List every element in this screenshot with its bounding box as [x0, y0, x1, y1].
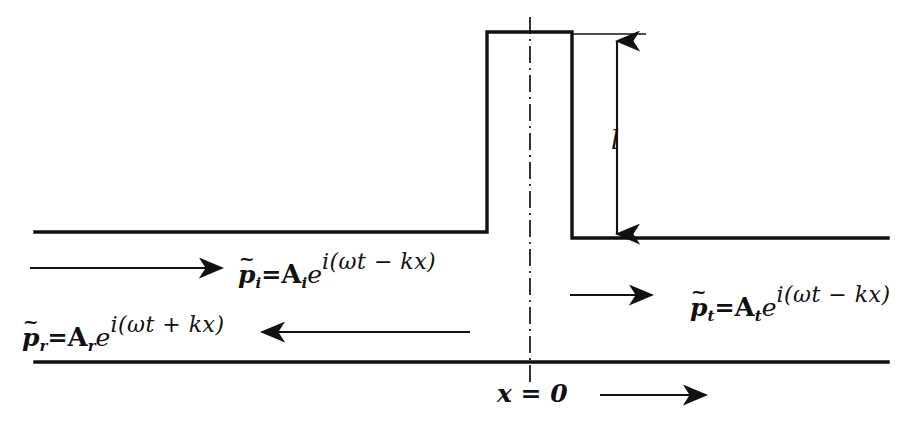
- transmitted-p-symbol: ~p: [690, 295, 707, 320]
- incident-exponent: i(ωt − kx): [322, 249, 436, 274]
- incident-exp-base: e: [307, 260, 322, 289]
- reflected-exponent: i(ωt + kx): [110, 312, 224, 337]
- transmitted-exp-base: e: [762, 293, 777, 322]
- tilde-accent-reflected: ~: [23, 312, 39, 331]
- transmitted-amplitude-symbol: A: [735, 292, 755, 322]
- tilde-accent-incident: ~: [239, 249, 255, 268]
- transmitted-amplitude-subscript: t: [755, 307, 762, 325]
- reflected-equals: =: [47, 323, 67, 352]
- tilde-accent-transmitted: ~: [691, 282, 707, 301]
- reflected-amplitude-subscript: r: [88, 337, 96, 355]
- incident-equals: =: [261, 260, 281, 289]
- reflected-p-symbol: ~p: [22, 325, 39, 350]
- reflected-exp-base: e: [96, 323, 111, 352]
- transmitted-equals: =: [714, 293, 734, 322]
- reflected-wave-formula: ~pr=Arei(ωt + kx): [22, 314, 225, 354]
- upper-wall-with-barrier: [35, 32, 888, 238]
- incident-amplitude-symbol: A: [281, 259, 301, 289]
- incident-wave-formula: ~pi=Aiei(ωt − kx): [238, 251, 436, 291]
- reflected-amplitude-symbol: A: [68, 322, 88, 352]
- thickness-label: l: [611, 125, 619, 155]
- diagram-canvas: [0, 0, 920, 429]
- acoustic-layer-diagram: ~pi=Aiei(ωt − kx) ~pr=Arei(ωt + kx) ~pt=…: [0, 0, 920, 429]
- transmitted-wave-formula: ~pt=Atei(ωt − kx): [690, 284, 891, 324]
- origin-label: x = 0: [497, 379, 568, 408]
- transmitted-exponent: i(ωt − kx): [776, 282, 890, 307]
- incident-p-symbol: ~p: [238, 262, 255, 287]
